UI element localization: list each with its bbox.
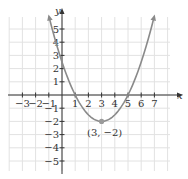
parabola-chart: −3−2−11234567−5−4−3−2−112345 x y (3, −2) — [0, 0, 188, 179]
vertex-annotation: (3, −2) — [87, 127, 122, 138]
y-tick-label: −4 — [44, 142, 59, 153]
y-tick-label: 1 — [53, 76, 59, 87]
y-axis-label: y — [54, 5, 61, 16]
vertex-dot — [99, 119, 104, 124]
grid — [9, 17, 170, 171]
x-tick-label: 3 — [98, 98, 104, 109]
y-tick-label: −1 — [44, 103, 59, 114]
y-tick-label: −5 — [44, 156, 59, 167]
curve-arrow-icon — [47, 15, 52, 22]
x-axis-label: x — [177, 90, 183, 101]
x-tick-label: 4 — [112, 98, 118, 109]
y-tick-label: 2 — [53, 63, 59, 74]
vertex-point — [99, 119, 104, 124]
x-tick-label: 6 — [138, 98, 144, 109]
y-tick-label: −2 — [44, 116, 59, 127]
x-tick-label: 7 — [151, 98, 157, 109]
y-tick-label: −3 — [44, 129, 59, 140]
curve-arrow-icon — [151, 15, 156, 22]
axes — [8, 8, 183, 174]
x-tick-label: 2 — [85, 98, 91, 109]
